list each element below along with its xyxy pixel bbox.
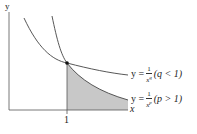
label-q-condition: (q < 1)	[154, 68, 182, 79]
intersection-point	[65, 61, 69, 65]
denominator: xq	[146, 74, 152, 84]
numerator: 1	[146, 66, 152, 74]
label-p-condition: (p > 1)	[154, 93, 182, 104]
label-p-lhs: y =	[131, 93, 144, 104]
label-curve-q: y =1xq(q < 1)	[131, 66, 182, 84]
fraction-1-over-x-q: 1xq	[146, 66, 152, 84]
den-exp: q	[149, 75, 152, 80]
curve-q-less-than-1	[24, 18, 128, 75]
label-q-lhs: y =	[131, 68, 144, 79]
label-curve-p: y =1xp(p > 1)	[131, 91, 182, 109]
denominator: xp	[146, 99, 152, 109]
numerator: 1	[146, 91, 152, 99]
x-tick-1: 1	[64, 114, 69, 125]
den-exp: p	[149, 100, 152, 105]
fraction-1-over-x-p: 1xp	[146, 91, 152, 109]
y-axis-label: y	[5, 1, 10, 11]
